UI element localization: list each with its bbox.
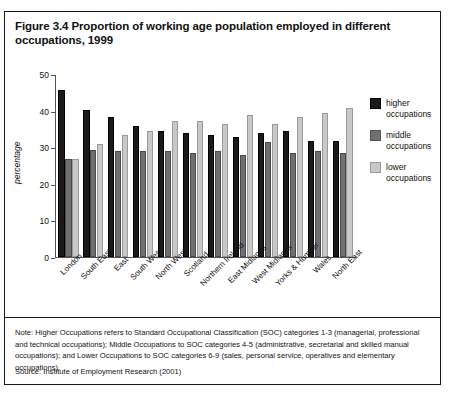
bar-lower [72,159,78,257]
bar-lower [247,115,253,257]
bar-middle [65,159,71,257]
bar-lower [272,124,278,257]
bar-lower [172,121,178,258]
bar-middle [165,151,171,257]
bar-middle [90,150,96,257]
legend-swatch-lower-icon [370,162,381,173]
legend-item: middle occupations [370,130,438,151]
bar-group [230,75,255,257]
x-label-cell: Wales [307,259,332,311]
bar-lower [197,121,203,258]
x-label-cell: Northern Ireland [206,259,231,311]
x-label-cell: South West [131,259,156,311]
bar-group [255,75,280,257]
chart-legend: higher occupations middle occupations lo… [370,98,438,194]
bar-higher [83,110,89,257]
y-tick-label: 50 [40,70,49,80]
legend-swatch-middle-icon [370,130,381,141]
figure-panel: Figure 3.4 Proportion of working age pop… [4,11,441,385]
bar-higher [258,133,264,257]
x-label-cell: North East [332,259,357,311]
y-tick-label: 0 [44,253,49,263]
bar-group [305,75,330,257]
y-axis-label: percentage [12,141,22,184]
bar-group [131,75,156,257]
plot-area: percentage 01020304050 LondonSouth EastE… [5,56,442,311]
bar-group [181,75,206,257]
chart-axes: 01020304050 [55,75,355,258]
bar-lower [322,113,328,257]
bar-lower [222,124,228,257]
bar-higher [183,133,189,257]
x-label-cell: East Midlands [231,259,256,311]
legend-item: higher occupations [370,98,438,119]
bar-middle [340,153,346,257]
bar-higher [333,141,339,257]
y-tick [51,75,55,76]
bar-groups [56,75,355,257]
y-tick [51,185,55,186]
footer-divider [5,317,440,318]
bar-group [330,75,355,257]
bar-higher [208,135,214,257]
bar-higher [158,131,164,257]
bar-higher [233,137,239,257]
x-label-cell: North West [156,259,181,311]
y-tick-label: 40 [40,107,49,117]
bar-middle [190,153,196,257]
bar-group [106,75,131,257]
figure-source: Source: Institute of Employment Research… [15,367,181,376]
bar-higher [108,117,114,257]
bar-lower [122,135,128,257]
figure-title: Figure 3.4 Proportion of working age pop… [15,19,427,47]
y-tick [51,221,55,222]
bar-middle [215,151,221,257]
x-axis-labels: LondonSouth EastEastSouth WestNorth West… [55,259,357,311]
legend-label-lower: lower occupations [386,162,438,183]
x-label-cell: Yorks & Humber [282,259,307,311]
y-tick-label: 30 [40,143,49,153]
bar-group [280,75,305,257]
bar-group [156,75,181,257]
x-label-cell: South East [80,259,105,311]
bar-group [81,75,106,257]
bar-lower [346,108,352,257]
y-tick-label: 10 [40,216,49,226]
bar-lower [297,117,303,257]
bar-higher [58,90,64,257]
legend-label-middle: middle occupations [386,130,438,151]
y-tick [51,112,55,113]
bar-middle [115,151,121,257]
bar-higher [283,131,289,257]
bar-lower [147,131,153,257]
x-label-cell: East [105,259,130,311]
bar-middle [290,153,296,257]
bar-middle [265,142,271,257]
y-tick [51,148,55,149]
bar-group [56,75,81,257]
legend-swatch-higher-icon [370,98,381,109]
legend-item: lower occupations [370,162,438,183]
y-tick-label: 20 [40,180,49,190]
bar-higher [308,141,314,257]
bar-higher [133,126,139,257]
bar-lower [97,144,103,257]
x-label-cell: London [55,259,80,311]
bar-group [206,75,231,257]
bar-middle [140,151,146,257]
legend-label-higher: higher occupations [386,98,438,119]
